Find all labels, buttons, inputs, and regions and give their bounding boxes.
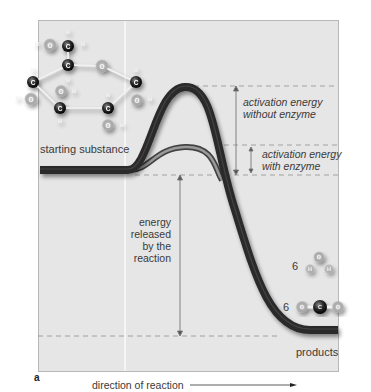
svg-text:H: H — [308, 266, 312, 272]
svg-text:H: H — [81, 41, 85, 47]
panel-letter: a — [34, 372, 40, 383]
svg-text:O: O — [134, 97, 139, 104]
svg-text:H: H — [66, 29, 70, 35]
svg-text:C: C — [31, 79, 36, 86]
svg-text:H: H — [106, 92, 110, 98]
svg-text:H: H — [66, 77, 70, 83]
svg-text:H: H — [327, 266, 331, 272]
svg-text:O: O — [300, 304, 305, 310]
svg-text:O: O — [58, 88, 63, 95]
activation-without-enzyme-label: activation energy without enzyme — [243, 96, 322, 120]
label-line: with enzyme — [262, 160, 341, 172]
svg-text:H: H — [16, 95, 20, 101]
starting-substance-label: starting substance — [40, 143, 129, 155]
svg-text:O: O — [47, 42, 52, 49]
products-label: products — [296, 346, 338, 358]
svg-text:H: H — [31, 67, 35, 73]
svg-text:O: O — [317, 254, 322, 260]
label-line: reaction — [120, 252, 171, 264]
svg-text:H: H — [148, 96, 152, 102]
svg-text:O: O — [336, 304, 341, 310]
activation-with-enzyme-label: activation energy with enzyme — [262, 148, 341, 172]
energy-released-label: energy released by the reaction — [120, 216, 171, 264]
svg-text:C: C — [58, 105, 63, 112]
svg-text:H: H — [120, 122, 124, 128]
energy-diagram: g stroke="#777" stroke-width="0.9" fill=… — [0, 0, 371, 392]
svg-text:C: C — [66, 62, 71, 69]
svg-text:H: H — [58, 118, 62, 124]
svg-text:H: H — [35, 41, 39, 47]
co2-coefficient: 6 — [283, 301, 289, 313]
svg-text:C: C — [318, 304, 322, 310]
svg-text:O: O — [105, 122, 110, 129]
svg-text:C: C — [66, 43, 71, 50]
label-line: activation energy — [243, 96, 322, 108]
label-line: released — [120, 228, 171, 240]
label-line: by the — [120, 240, 171, 252]
water-coefficient: 6 — [292, 260, 298, 272]
plot-panel — [39, 21, 339, 372]
svg-text:H: H — [134, 67, 138, 73]
diagram-canvas: g stroke="#777" stroke-width="0.9" fill=… — [0, 0, 371, 392]
svg-text:O: O — [99, 63, 104, 70]
x-axis-label: direction of reaction — [92, 379, 184, 391]
svg-text:H: H — [72, 88, 76, 94]
label-line: activation energy — [262, 148, 341, 160]
svg-text:O: O — [28, 96, 33, 103]
co2-molecule: OCO — [296, 300, 344, 314]
label-line: without enzyme — [243, 108, 322, 120]
svg-text:C: C — [106, 105, 111, 112]
label-line: energy — [120, 216, 171, 228]
svg-text:C: C — [134, 79, 139, 86]
